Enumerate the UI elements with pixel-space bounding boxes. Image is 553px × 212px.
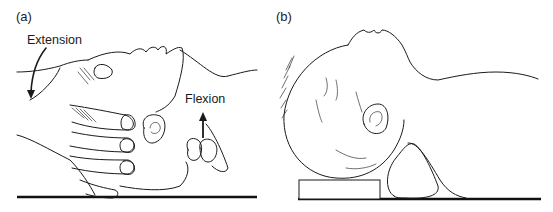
fingernail-3 (120, 161, 135, 175)
ear-inner (150, 122, 160, 133)
hatching (78, 68, 94, 84)
head-outline (17, 60, 88, 72)
panel-label-a: (a) (16, 9, 32, 24)
face-profile (348, 30, 538, 80)
lift-finger-2 (200, 139, 217, 162)
panel-a: (a) Extension Flexion (0, 0, 276, 212)
flexion-arrow-head (199, 112, 207, 121)
body-contour (408, 143, 466, 198)
lift-finger-1 (187, 138, 202, 160)
jaw-outline (120, 162, 188, 190)
panel-a-illustration (0, 0, 276, 212)
panel-label-b: (b) (276, 9, 292, 24)
thumb (94, 64, 112, 78)
head-shading (316, 78, 362, 122)
extension-label: Extension (27, 33, 82, 47)
fingernail-2 (120, 139, 135, 153)
shoulder-roll (387, 144, 438, 199)
ear-outline (143, 115, 165, 143)
finger-4 (80, 180, 118, 198)
hair (280, 56, 294, 118)
hatching (72, 108, 96, 122)
panel-b: (b) (276, 0, 553, 212)
hand-outline (17, 68, 95, 195)
ear-outline (363, 104, 388, 134)
head-block (299, 180, 380, 199)
finger-1 (70, 105, 133, 130)
head-outline (284, 45, 404, 178)
finger-2 (70, 132, 134, 152)
flexion-label: Flexion (185, 92, 225, 106)
neck-outline (180, 50, 257, 77)
ear-inner (370, 112, 382, 126)
neck-shading (336, 150, 376, 169)
panel-b-illustration (276, 0, 553, 212)
face-profile (88, 47, 183, 112)
